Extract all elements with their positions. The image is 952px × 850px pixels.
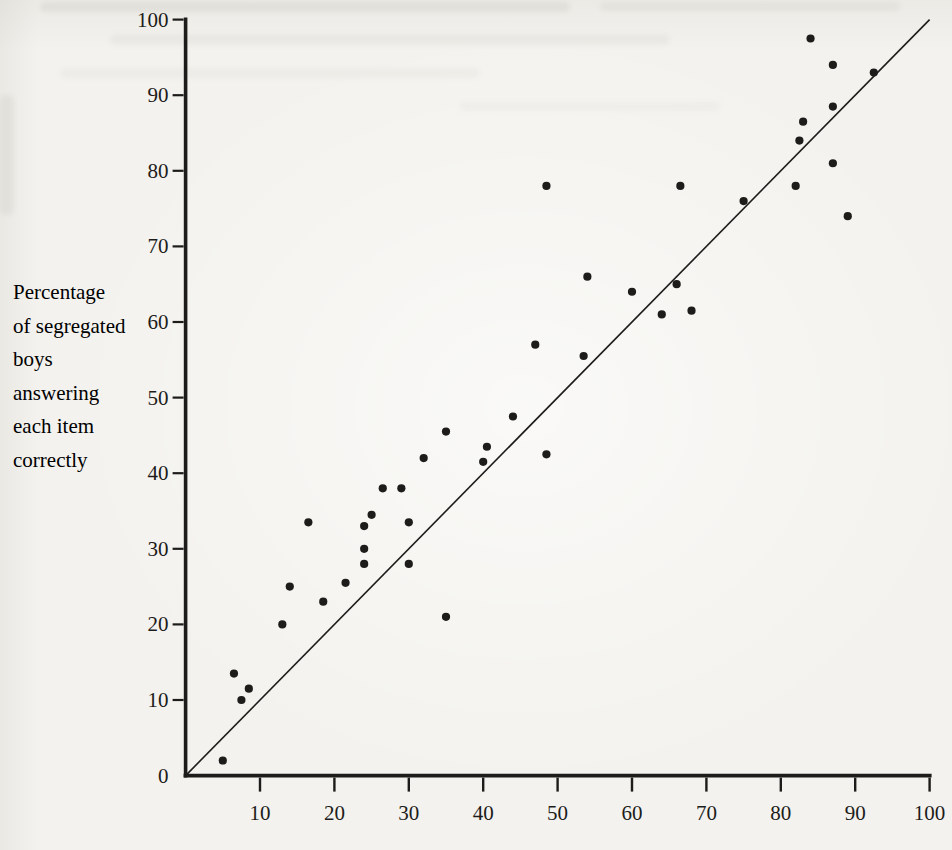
x-tick-label: 70 xyxy=(696,801,717,825)
data-point xyxy=(420,454,428,462)
data-point xyxy=(509,412,517,420)
data-point xyxy=(397,484,405,492)
data-point xyxy=(442,428,450,436)
data-point xyxy=(829,102,837,110)
data-point xyxy=(405,560,413,568)
data-point xyxy=(368,511,376,519)
data-point xyxy=(829,159,837,167)
data-point xyxy=(286,583,294,591)
data-point xyxy=(531,341,539,349)
data-point xyxy=(844,212,852,220)
x-tick-label: 20 xyxy=(324,801,345,825)
identity-line xyxy=(186,20,930,776)
data-point xyxy=(237,696,245,704)
scatter-plot: 0102030405060708090100102030405060708090… xyxy=(0,0,952,850)
data-point xyxy=(795,136,803,144)
data-point xyxy=(628,288,636,296)
x-tick-label: 100 xyxy=(914,801,946,825)
data-point xyxy=(687,307,695,315)
data-point xyxy=(341,579,349,587)
data-point xyxy=(673,280,681,288)
data-point xyxy=(319,598,327,606)
x-tick-label: 60 xyxy=(622,801,643,825)
data-point xyxy=(442,613,450,621)
y-tick-label: 80 xyxy=(148,159,169,183)
data-point xyxy=(278,620,286,628)
y-tick-label: 0 xyxy=(158,764,169,788)
y-tick-label: 100 xyxy=(137,8,169,32)
data-point xyxy=(379,484,387,492)
data-point xyxy=(542,182,550,190)
y-tick-label: 10 xyxy=(148,688,169,712)
data-point xyxy=(829,61,837,69)
y-tick-label: 90 xyxy=(148,83,169,107)
data-point xyxy=(483,443,491,451)
data-point xyxy=(245,685,253,693)
data-point xyxy=(542,450,550,458)
data-point xyxy=(360,545,368,553)
data-point xyxy=(792,182,800,190)
data-point xyxy=(479,458,487,466)
data-point xyxy=(806,34,814,42)
x-tick-label: 10 xyxy=(250,801,271,825)
data-point xyxy=(799,118,807,126)
data-point xyxy=(304,518,312,526)
x-tick-label: 30 xyxy=(398,801,419,825)
data-point xyxy=(740,197,748,205)
x-tick-label: 80 xyxy=(770,801,791,825)
data-point xyxy=(658,310,666,318)
data-point xyxy=(219,756,227,764)
data-point xyxy=(360,560,368,568)
data-point xyxy=(230,669,238,677)
y-tick-label: 60 xyxy=(148,310,169,334)
x-tick-label: 40 xyxy=(473,801,494,825)
y-tick-label: 30 xyxy=(148,537,169,561)
y-tick-label: 20 xyxy=(148,612,169,636)
y-tick-label: 40 xyxy=(148,461,169,485)
y-tick-label: 50 xyxy=(148,386,169,410)
data-point xyxy=(580,352,588,360)
data-point xyxy=(870,68,878,76)
x-tick-label: 50 xyxy=(547,801,568,825)
data-point xyxy=(583,273,591,281)
x-tick-label: 90 xyxy=(845,801,866,825)
data-point xyxy=(676,182,684,190)
y-tick-label: 70 xyxy=(148,234,169,258)
scanned-page-background: Percentage of segregated boys answering … xyxy=(0,0,952,850)
data-point xyxy=(360,522,368,530)
data-point xyxy=(405,518,413,526)
